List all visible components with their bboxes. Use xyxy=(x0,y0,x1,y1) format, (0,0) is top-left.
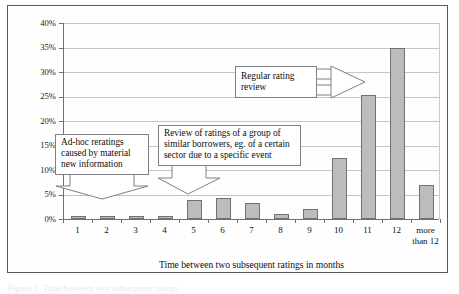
annotation-group-review-pointer xyxy=(158,165,258,197)
figure-caption: Figure 1: Time between two subsequent ra… xyxy=(8,283,308,294)
y-tick-label: 0% xyxy=(20,214,56,224)
y-tick-label: 40% xyxy=(20,18,56,28)
bar xyxy=(361,95,376,219)
y-tick-label: 10% xyxy=(20,165,56,175)
x-tick-mark xyxy=(208,219,209,223)
annotation-line: Regular rating xyxy=(241,71,312,82)
x-tick-mark xyxy=(237,219,238,223)
annotation-line: sector due to a specific event xyxy=(164,150,296,161)
x-tick-mark xyxy=(295,219,296,223)
annotation-line: Ad-hoc reratings xyxy=(61,137,144,148)
annotation-line: new information xyxy=(61,159,144,170)
y-tick-label: 35% xyxy=(20,42,56,52)
bar xyxy=(419,185,434,219)
bar xyxy=(303,209,318,219)
x-tick-label: 8 xyxy=(266,225,295,236)
x-tick-mark xyxy=(121,219,122,223)
bar xyxy=(390,48,405,220)
gridline xyxy=(64,48,439,49)
y-tick-label: 15% xyxy=(20,140,56,150)
x-tick-label: 11 xyxy=(353,225,382,236)
annotation-group-review: Review of ratings of a group of similar … xyxy=(158,125,301,166)
bar xyxy=(245,203,260,219)
x-tick-label: 5 xyxy=(179,225,208,236)
x-tick-label: 12 xyxy=(382,225,411,236)
x-tick-label: 3 xyxy=(121,225,150,236)
x-tick-label: more than 12 xyxy=(411,225,440,246)
y-tick-label: 5% xyxy=(20,189,56,199)
annotation-line: similar borrowers, eg. of a certain xyxy=(164,139,296,150)
x-tick-label: 2 xyxy=(92,225,121,236)
annotation-regular-review: Regular rating review xyxy=(235,66,317,98)
x-tick-label: 7 xyxy=(237,225,266,236)
x-tick-mark xyxy=(179,219,180,223)
x-axis-title: Time between two subsequent ratings in m… xyxy=(63,259,440,270)
x-tick-label: 1 xyxy=(63,225,92,236)
x-tick-mark xyxy=(382,219,383,223)
x-tick-mark xyxy=(92,219,93,223)
x-tick-label: 4 xyxy=(150,225,179,236)
x-tick-label: 9 xyxy=(295,225,324,236)
annotation-line: Review of ratings of a group of xyxy=(164,128,296,139)
x-tick-mark xyxy=(411,219,412,223)
x-tick-mark xyxy=(324,219,325,223)
annotation-regular-review-pointer xyxy=(315,66,369,100)
x-tick-mark xyxy=(440,219,441,223)
x-tick-mark xyxy=(150,219,151,223)
y-tick-label: 25% xyxy=(20,91,56,101)
annotation-line: review xyxy=(241,82,312,93)
annotation-ad-hoc-pointer xyxy=(54,174,154,202)
x-tick-label: 10 xyxy=(324,225,353,236)
bar xyxy=(332,158,347,219)
x-tick-label: 6 xyxy=(208,225,237,236)
chart-frame: Ratio of rerated clients 0%5%10%15%20%25… xyxy=(7,5,448,273)
figure-container: Ratio of rerated clients 0%5%10%15%20%25… xyxy=(0,0,459,294)
bar xyxy=(187,200,202,219)
gridline xyxy=(64,121,439,122)
x-tick-mark xyxy=(353,219,354,223)
y-tick-label: 20% xyxy=(20,116,56,126)
annotation-line: caused by material xyxy=(61,148,144,159)
gridline xyxy=(64,23,439,24)
x-tick-mark xyxy=(63,219,64,223)
bar xyxy=(216,198,231,219)
y-tick-label: 30% xyxy=(20,67,56,77)
x-tick-mark xyxy=(266,219,267,223)
annotation-ad-hoc: Ad-hoc reratings caused by material new … xyxy=(55,134,149,175)
